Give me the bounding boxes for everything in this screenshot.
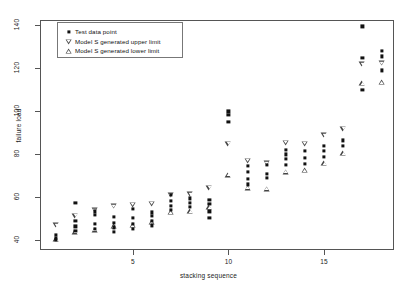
data-point-test: [246, 170, 249, 173]
data-point-upper-limit: [359, 61, 366, 66]
data-point-test: [323, 150, 326, 153]
data-point-upper-limit: [340, 126, 347, 131]
data-point-upper-limit: [206, 185, 213, 190]
data-point-test: [227, 121, 230, 124]
y-tick-mark: [35, 25, 40, 26]
data-point-test: [284, 148, 287, 151]
data-point-test: [342, 144, 345, 147]
data-point-test: [150, 224, 153, 227]
x-tick-label: 15: [312, 258, 336, 265]
x-tick-label: 5: [121, 258, 145, 265]
data-point-test: [361, 88, 364, 91]
data-point-lower-limit: [378, 80, 385, 85]
data-point-test: [150, 214, 153, 217]
legend-item-lower-limit: Model S generated lower limit: [63, 46, 177, 55]
data-point-upper-limit: [149, 201, 156, 206]
y-tick-mark: [35, 111, 40, 112]
data-point-test: [246, 183, 249, 186]
data-point-upper-limit: [244, 158, 251, 163]
data-point-test: [342, 139, 345, 142]
data-point-test: [93, 213, 96, 216]
scatter-chart-figure: 40608010012014051015 failure load stacki…: [0, 0, 417, 297]
data-point-lower-limit: [359, 81, 366, 86]
data-point-test: [265, 176, 268, 179]
data-point-test: [74, 201, 77, 204]
data-point-lower-limit: [187, 209, 194, 214]
data-point-lower-limit: [321, 160, 328, 165]
data-point-test: [361, 25, 364, 28]
data-point-upper-limit: [225, 141, 232, 146]
data-point-test: [303, 156, 306, 159]
data-point-test: [93, 223, 96, 226]
data-point-test: [189, 205, 192, 208]
data-point-upper-limit: [282, 140, 289, 145]
x-tick-mark: [228, 250, 229, 255]
data-point-test: [246, 178, 249, 181]
y-tick-label: 120: [13, 56, 20, 80]
data-point-test: [112, 222, 115, 225]
y-tick-label: 40: [13, 228, 20, 252]
data-point-test: [74, 219, 77, 222]
down-triangle-icon: [63, 37, 75, 46]
data-point-upper-limit: [53, 223, 60, 228]
legend-item-test-data-point: Test data point: [63, 27, 177, 36]
data-point-test: [208, 216, 211, 219]
data-point-test: [208, 210, 211, 213]
y-tick-mark: [35, 240, 40, 241]
legend-item-upper-limit: Model S generated upper limit: [63, 37, 177, 46]
y-axis-label: failure load: [15, 96, 22, 156]
data-point-test: [150, 219, 153, 222]
data-point-test: [131, 227, 134, 230]
data-point-test: [361, 56, 364, 59]
data-point-test: [227, 110, 230, 113]
data-point-lower-limit: [302, 168, 309, 173]
data-point-lower-limit: [340, 151, 347, 156]
data-point-test: [208, 202, 211, 205]
data-point-test: [380, 55, 383, 58]
x-tick-mark: [133, 250, 134, 255]
data-point-lower-limit: [263, 186, 270, 191]
data-point-test: [323, 144, 326, 147]
data-point-test: [189, 201, 192, 204]
y-tick-mark: [35, 68, 40, 69]
data-point-upper-limit: [378, 60, 385, 65]
data-point-test: [131, 208, 134, 211]
legend-label: Test data point: [75, 27, 117, 36]
data-point-test: [131, 223, 134, 226]
up-triangle-icon: [63, 46, 75, 55]
data-point-test: [93, 227, 96, 230]
data-point-test: [150, 211, 153, 214]
x-tick-label: 10: [216, 258, 240, 265]
data-point-test: [93, 210, 96, 213]
data-point-test: [55, 233, 58, 236]
data-point-test: [169, 209, 172, 212]
x-tick-mark: [324, 250, 325, 255]
data-point-test: [74, 229, 77, 232]
data-point-test: [284, 153, 287, 156]
data-point-lower-limit: [282, 169, 289, 174]
data-point-test: [303, 150, 306, 153]
data-point-test: [380, 50, 383, 53]
legend-label: Model S generated upper limit: [75, 37, 160, 46]
filled-square-icon: [63, 27, 75, 36]
data-point-test: [208, 198, 211, 201]
data-point-test: [112, 226, 115, 229]
data-point-test: [189, 197, 192, 200]
data-point-test: [74, 225, 77, 228]
data-point-upper-limit: [72, 213, 79, 218]
data-point-upper-limit: [110, 203, 117, 208]
y-tick-label: 60: [13, 185, 20, 209]
data-point-test: [380, 69, 383, 72]
data-point-test: [55, 238, 58, 241]
data-point-test: [284, 157, 287, 160]
legend-label: Model S generated lower limit: [75, 46, 159, 55]
y-tick-mark: [35, 154, 40, 155]
data-point-test: [323, 155, 326, 158]
data-point-test: [227, 113, 230, 116]
data-point-upper-limit: [321, 132, 328, 137]
data-point-test: [284, 164, 287, 167]
data-point-test: [169, 204, 172, 207]
data-point-test: [112, 230, 115, 233]
y-tick-label: 140: [13, 13, 20, 37]
data-point-test: [246, 165, 249, 168]
